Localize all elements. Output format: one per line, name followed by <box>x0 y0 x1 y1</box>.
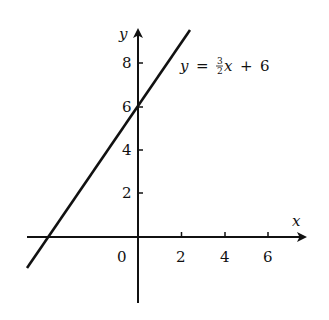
eq-var: x <box>224 57 233 75</box>
y-tick-label-6: 6 <box>122 98 132 116</box>
y-tick-label-4: 4 <box>122 141 132 159</box>
y-tick-label-2: 2 <box>122 184 132 202</box>
eq-equals: = <box>196 57 209 75</box>
eq-plus: + <box>240 57 253 75</box>
eq-lhs: y <box>179 57 189 75</box>
line-chart: x y 0 2 4 6 2 4 6 8 y = 3 2 x + 6 <box>0 0 329 320</box>
eq-denominator: 2 <box>217 66 223 76</box>
y-tick-label-8: 8 <box>122 54 132 72</box>
series-line <box>27 30 190 268</box>
x-tick-label-6: 6 <box>263 248 273 266</box>
eq-constant: 6 <box>260 57 270 75</box>
eq-numerator: 3 <box>217 56 223 66</box>
x-axis-label: x <box>292 212 301 230</box>
equation-annotation: y = 3 2 x + 6 <box>179 56 270 76</box>
x-tick-label-2: 2 <box>176 248 186 266</box>
x-tick-label-4: 4 <box>220 248 230 266</box>
origin-label: 0 <box>117 248 127 266</box>
y-axis-label: y <box>118 25 128 43</box>
